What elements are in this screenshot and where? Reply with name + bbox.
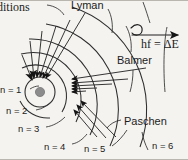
shell-label-n6: n = 6 (152, 141, 173, 151)
label-leader-lines (30, 2, 167, 150)
lyman-transition-4 (37, 31, 42, 77)
series-label-balmer: Balmer (117, 55, 152, 66)
orbit-arc-n3 (21, 52, 81, 122)
balmer-transition-5 (72, 91, 86, 92)
leader-balmer-bottom (130, 70, 133, 92)
leader-n5 (112, 130, 127, 146)
series-label-lyman: Lyman (71, 0, 104, 11)
nucleus (35, 87, 44, 96)
scan-border (0, 1, 188, 160)
bohr-model-spectral-series-figure: ditions Lyman Balmer Paschen hf = ΔE n =… (0, 0, 188, 160)
lyman-transition-5 (30, 41, 34, 78)
leader-n2 (36, 102, 51, 110)
transition-lines-balmer (72, 68, 146, 92)
paschen-transition-1 (81, 101, 116, 137)
photon-energy-equation: hf = ΔE (141, 38, 179, 50)
shell-label-n2: n = 2 (6, 106, 27, 116)
leader-conditions (47, 5, 64, 15)
transition-lines-lyman (22, 13, 85, 80)
photon-emission-symbol (131, 25, 178, 35)
lyman-transition-3 (40, 26, 56, 77)
lyman-transition-1 (46, 13, 85, 78)
caption-text-fragment: ditions (0, 1, 30, 13)
leader-n6 (142, 132, 148, 150)
shell-label-n1: n = 1 (0, 85, 21, 95)
leader-paschen (107, 120, 121, 128)
diagram-canvas (0, 0, 188, 160)
leader-photon-left (143, 2, 150, 23)
photon-wave-icon (131, 25, 142, 35)
balmer-transition-4 (72, 88, 97, 89)
series-label-paschen: Paschen (124, 116, 167, 127)
balmer-transition-2 (72, 79, 128, 83)
shell-label-n4: n = 4 (44, 142, 65, 152)
shell-label-n5: n = 5 (84, 144, 105, 154)
shell-label-n3: n = 3 (18, 124, 39, 134)
